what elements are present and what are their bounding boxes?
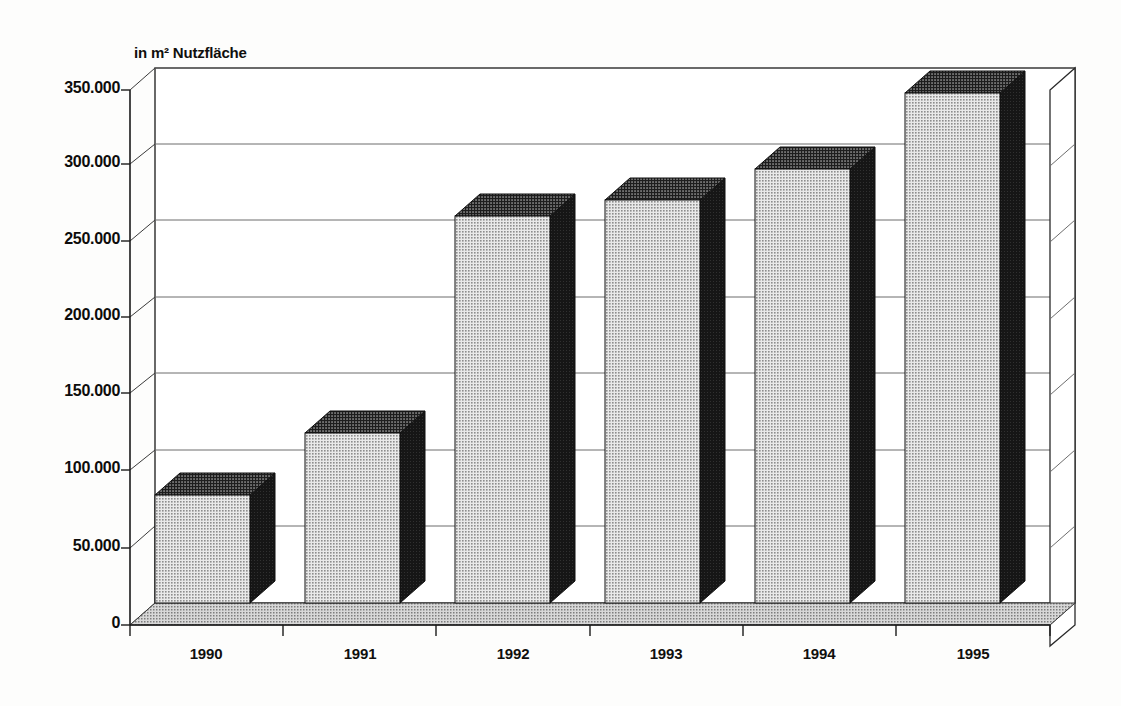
- chart-page: in m² Nutzfläche: [0, 0, 1121, 706]
- x-tick-1995: 1995: [913, 645, 1033, 662]
- x-tick-1992: 1992: [453, 645, 573, 662]
- x-tick-1993: 1993: [606, 645, 726, 662]
- x-tick-1994: 1994: [759, 645, 879, 662]
- x-tick-1990: 1990: [146, 645, 266, 662]
- x-axis-tick-labels: 1990 1991 1992 1993 1994 1995: [0, 0, 1121, 706]
- x-tick-1991: 1991: [300, 645, 420, 662]
